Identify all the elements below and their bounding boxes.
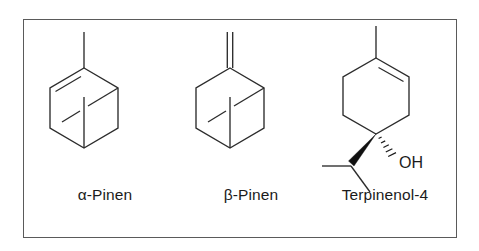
structure-terpinenol-4: OH Terpinenol-4 xyxy=(314,20,456,237)
terp-hydroxyl-hash-wedge xyxy=(379,137,396,157)
alpha-pinene-drawing xyxy=(30,20,180,188)
structure-alpha-pinene: α-Pinen xyxy=(30,20,180,237)
terpinenol-4-svg: OH xyxy=(314,20,456,188)
compound-label-terpinenol-4: Terpinenol-4 xyxy=(314,186,456,204)
compound-label-alpha-pinene: α-Pinen xyxy=(30,186,180,204)
beta-pinene-svg xyxy=(176,20,326,188)
beta-pinene-drawing xyxy=(176,20,326,188)
atom-label-hydroxyl: OH xyxy=(399,154,423,171)
beta-bridge-diagonal-lower xyxy=(208,111,226,122)
alpha-bridge-diagonal-upper xyxy=(88,88,118,106)
terp-isopropyl-wedge xyxy=(349,134,377,166)
terp-double-bond-inner xyxy=(379,68,404,82)
alpha-double-bond-inner xyxy=(56,77,82,92)
terp-ring-hexagon xyxy=(343,58,409,134)
figure-border-panel: α-Pinen β-Pinen xyxy=(23,19,457,238)
terpinenol-4-drawing: OH xyxy=(314,20,456,188)
beta-bridge-diagonal-upper xyxy=(234,88,264,106)
alpha-pinene-svg xyxy=(30,20,180,188)
alpha-bridge-diagonal-lower xyxy=(62,111,80,122)
compound-label-beta-pinene: β-Pinen xyxy=(176,186,326,204)
structure-beta-pinene: β-Pinen xyxy=(176,20,326,237)
